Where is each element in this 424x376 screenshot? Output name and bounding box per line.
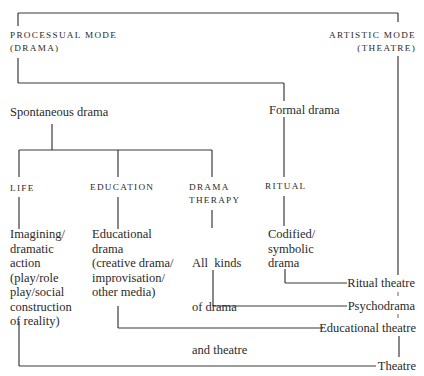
description-line: of reality): [10, 314, 72, 329]
description-line: Educational: [92, 227, 174, 242]
description-line: (creative drama/: [92, 256, 174, 271]
description-line: All kinds: [192, 256, 247, 271]
diagram-title-cropped: AESTHETIC MODE OF ...: [100, 0, 235, 2]
description-life: Imagining/ dramatic action (play/role pl…: [10, 227, 72, 329]
processual-mode-line2: (DRAMA): [10, 42, 117, 55]
category-drama-therapy: DRAMA THERAPY: [189, 181, 240, 207]
description-line: Imagining/: [10, 227, 72, 242]
description-line: other media): [92, 285, 174, 300]
description-education: Educational drama (creative drama/ impro…: [92, 227, 174, 300]
description-line: (play/role: [10, 271, 72, 286]
outcome-psychodrama: Psychodrama: [348, 299, 415, 314]
description-line: play/social: [10, 285, 72, 300]
outcome-ritual-theatre: Ritual theatre: [347, 276, 415, 291]
description-drama-therapy: All kinds of drama and theatre: [192, 227, 247, 372]
artistic-mode-label: ARTISTIC MODE (THEATRE): [329, 29, 416, 55]
description-line: symbolic: [268, 242, 315, 257]
description-line: improvisation/: [92, 271, 174, 286]
outcome-educational-theatre: Educational theatre: [319, 321, 416, 336]
formal-drama-label: Formal drama: [269, 103, 339, 118]
description-line: construction: [10, 300, 72, 315]
description-line: and theatre: [192, 343, 247, 358]
description-line: action: [10, 256, 72, 271]
outcome-theatre: Theatre: [378, 359, 416, 374]
category-education: EDUCATION: [90, 181, 154, 194]
description-line: dramatic: [10, 242, 72, 257]
description-line: drama: [92, 242, 174, 257]
spontaneous-drama-label: Spontaneous drama: [10, 105, 108, 120]
description-ritual: Codified/ symbolic drama: [268, 227, 315, 271]
processual-mode-label: PROCESSUAL MODE (DRAMA): [10, 29, 117, 55]
artistic-mode-line1: ARTISTIC MODE: [329, 29, 416, 42]
category-life: LIFE: [10, 182, 35, 195]
processual-mode-line1: PROCESSUAL MODE: [10, 29, 117, 42]
description-line: of drama: [192, 300, 247, 315]
category-drama-therapy-line2: THERAPY: [189, 194, 240, 207]
artistic-mode-line2: (THEATRE): [329, 42, 416, 55]
description-line: drama: [268, 256, 315, 271]
description-line: Codified/: [268, 227, 315, 242]
category-drama-therapy-line1: DRAMA: [189, 181, 240, 194]
category-ritual: RITUAL: [265, 180, 306, 193]
